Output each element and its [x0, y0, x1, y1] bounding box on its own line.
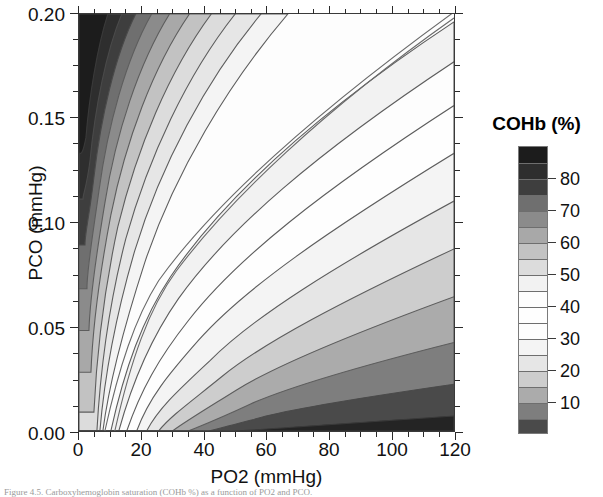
x-tick-minor	[313, 432, 314, 437]
y-tick-0.20	[70, 13, 78, 14]
y-tick-right-minor	[455, 196, 460, 197]
x-tick-label-60: 60	[231, 440, 301, 459]
y-tick-right	[455, 13, 463, 14]
y-axis-title: PCO (mmHg)	[25, 103, 47, 343]
x-tick-minor	[251, 432, 252, 437]
x-tick-top-minor	[376, 9, 377, 14]
x-tick-minor	[157, 432, 158, 437]
x-tick-minor	[94, 432, 95, 437]
y-tick-minor	[73, 170, 78, 171]
x-tick-label-40: 40	[169, 440, 239, 459]
colorbar-band	[519, 403, 547, 419]
colorbar-label-40: 40	[560, 298, 602, 316]
x-tick-top	[78, 6, 79, 14]
plot-area	[78, 13, 455, 432]
y-tick-minor	[73, 380, 78, 381]
colorbar-label-10: 10	[560, 394, 602, 412]
y-tick-0.00	[70, 432, 78, 433]
y-tick-minor	[73, 91, 78, 92]
x-tick-top-minor	[423, 9, 424, 14]
colorbar-tick-50	[548, 274, 556, 275]
x-tick-minor	[298, 432, 299, 437]
x-tick-top-minor	[188, 9, 189, 14]
y-tick-label-0.20: 0.20	[0, 5, 65, 24]
x-tick-top-minor	[235, 9, 236, 14]
x-tick-minor	[282, 432, 283, 437]
x-tick-minor	[172, 432, 173, 437]
colorbar-band	[519, 419, 547, 434]
x-tick-top	[204, 6, 205, 14]
colorbar-tick-80	[548, 178, 556, 179]
figure-caption: Figure 4.5. Carboxyhemoglobin saturation…	[4, 487, 599, 497]
x-tick-top-minor	[298, 9, 299, 14]
colorbar-tick-10	[548, 402, 556, 403]
colorbar-band	[519, 307, 547, 323]
colorbar-band	[519, 179, 547, 195]
colorbar-label-30: 30	[560, 330, 602, 348]
y-tick-right-minor	[455, 380, 460, 381]
x-tick-label-120: 120	[420, 440, 490, 459]
x-tick-top-minor	[313, 9, 314, 14]
x-tick-minor	[345, 432, 346, 437]
colorbar-band	[519, 387, 547, 403]
x-tick-label-100: 100	[357, 440, 427, 459]
x-tick-top-minor	[220, 9, 221, 14]
colorbar-tick-30	[548, 338, 556, 339]
x-tick-top	[455, 6, 456, 14]
colorbar-band	[519, 227, 547, 243]
x-tick-minor	[235, 432, 236, 437]
y-tick-right	[455, 222, 463, 223]
x-tick-top	[329, 6, 330, 14]
x-tick-top	[141, 6, 142, 14]
y-tick-minor	[73, 39, 78, 40]
y-tick-right-minor	[455, 170, 460, 171]
y-tick-right-minor	[455, 275, 460, 276]
y-tick-minor	[73, 353, 78, 354]
x-tick-minor	[188, 432, 189, 437]
colorbar-band	[519, 259, 547, 275]
x-tick-top-minor	[251, 9, 252, 14]
x-tick-top-minor	[345, 9, 346, 14]
y-tick-right-minor	[455, 301, 460, 302]
y-tick-right-minor	[455, 91, 460, 92]
x-tick-minor	[220, 432, 221, 437]
x-tick-minor	[125, 432, 126, 437]
x-tick-label-80: 80	[294, 440, 364, 459]
x-tick-top-minor	[360, 9, 361, 14]
y-tick-right-minor	[455, 406, 460, 407]
y-tick-right	[455, 117, 463, 118]
x-tick-top	[266, 6, 267, 14]
x-tick-minor	[110, 432, 111, 437]
x-tick-top-minor	[157, 9, 158, 14]
colorbar-band	[519, 371, 547, 387]
x-tick-top-minor	[282, 9, 283, 14]
colorbar-band	[519, 195, 547, 211]
colorbar-label-20: 20	[560, 362, 602, 380]
colorbar-label-50: 50	[560, 266, 602, 284]
x-tick-top-minor	[439, 9, 440, 14]
contour-bands	[79, 14, 454, 431]
y-tick-minor	[73, 248, 78, 249]
x-axis-title: PO2 (mmHg)	[78, 466, 455, 488]
colorbar-band	[519, 291, 547, 307]
colorbar-band	[519, 211, 547, 227]
x-tick-minor	[439, 432, 440, 437]
y-tick-right-minor	[455, 353, 460, 354]
colorbar-band	[519, 323, 547, 339]
x-tick-top-minor	[408, 9, 409, 14]
y-tick-right	[455, 327, 463, 328]
y-tick-minor	[73, 196, 78, 197]
x-tick-label-0: 0	[43, 440, 113, 459]
x-tick-top	[392, 6, 393, 14]
x-tick-top-minor	[110, 9, 111, 14]
colorbar-tick-70	[548, 210, 556, 211]
colorbar-label-60: 60	[560, 234, 602, 252]
x-tick-top-minor	[94, 9, 95, 14]
colorbar-tick-20	[548, 370, 556, 371]
colorbar-band	[519, 339, 547, 355]
x-tick-minor	[423, 432, 424, 437]
colorbar-band	[519, 147, 547, 163]
y-tick-right-minor	[455, 248, 460, 249]
colorbar-band	[519, 163, 547, 179]
